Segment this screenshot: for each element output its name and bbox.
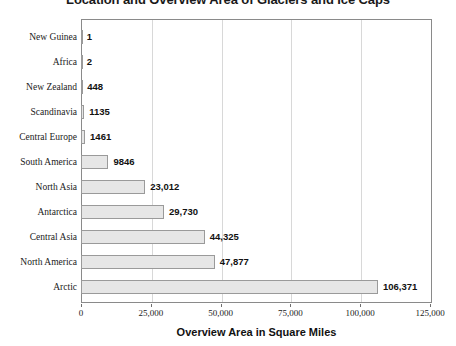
chart-page: Location and Overview Area of Glaciers a…	[0, 0, 456, 346]
bar	[81, 230, 205, 244]
tick-label: 125,000	[415, 308, 444, 318]
bar-row: 1135	[81, 105, 432, 119]
bar	[81, 255, 215, 269]
bar	[81, 280, 378, 294]
tick-mark	[221, 304, 222, 307]
bar-value-label: 44,325	[210, 229, 239, 244]
tick-label: 25,000	[138, 308, 163, 318]
bar-value-label: 1	[87, 29, 92, 44]
category-label: North America	[0, 255, 77, 269]
bar-value-label: 1135	[89, 104, 110, 119]
category-label: Scandinavia	[0, 105, 77, 119]
category-label: Central Europe	[0, 130, 77, 144]
category-label: Central Asia	[0, 230, 77, 244]
bar-value-label: 448	[87, 79, 103, 94]
bar	[81, 180, 145, 194]
tick-label: 75,000	[278, 308, 303, 318]
tick-label: 50,000	[208, 308, 233, 318]
bar	[81, 130, 85, 144]
bar-row: 1	[81, 30, 432, 44]
bar-value-label: 106,371	[383, 279, 417, 294]
bar	[81, 105, 84, 119]
category-label: North Asia	[0, 180, 77, 194]
category-label: New Zealand	[0, 80, 77, 94]
bar-row: 9846	[81, 155, 432, 169]
tick-mark	[290, 304, 291, 307]
x-axis-ticks: 025,00050,00075,000100,000125,000	[81, 304, 432, 320]
category-label: Arctic	[0, 280, 77, 294]
category-label: South America	[0, 155, 77, 169]
bar	[81, 205, 164, 219]
bar-value-label: 1461	[90, 129, 111, 144]
bar	[81, 30, 83, 44]
bar-value-label: 9846	[113, 154, 134, 169]
x-axis-title: Overview Area in Square Miles	[81, 326, 432, 338]
bar-row: 47,877	[81, 255, 432, 269]
bar-row: 44,325	[81, 230, 432, 244]
bar-row: 2	[81, 55, 432, 69]
tick-mark	[360, 304, 361, 307]
tick-mark	[81, 304, 82, 307]
bar-value-label: 47,877	[220, 254, 249, 269]
category-label: Antarctica	[0, 205, 77, 219]
tick-label: 0	[79, 308, 84, 318]
tick-label: 100,000	[346, 308, 375, 318]
category-label: Africa	[0, 55, 77, 69]
bar-value-label: 23,012	[150, 179, 179, 194]
bar-row: 1461	[81, 130, 432, 144]
bar	[81, 80, 83, 94]
bar	[81, 55, 83, 69]
category-axis: New GuineaAfricaNew ZealandScandinaviaCe…	[0, 19, 77, 303]
tick-mark	[151, 304, 152, 307]
category-label: New Guinea	[0, 30, 77, 44]
bar-value-label: 2	[87, 54, 92, 69]
bar-row: 29,730	[81, 205, 432, 219]
bars-layer: 1244811351461984623,01229,73044,32547,87…	[81, 19, 432, 303]
bar	[81, 155, 108, 169]
bar-row: 23,012	[81, 180, 432, 194]
tick-mark	[430, 304, 431, 307]
bar-value-label: 29,730	[169, 204, 198, 219]
bar-row: 448	[81, 80, 432, 94]
chart-title: Location and Overview Area of Glaciers a…	[0, 0, 456, 7]
bar-row: 106,371	[81, 280, 432, 294]
